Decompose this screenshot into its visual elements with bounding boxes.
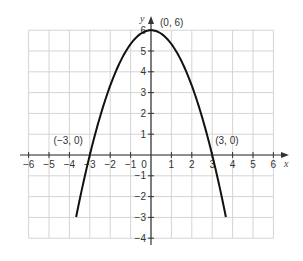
- x-tick-label: −6: [23, 159, 35, 170]
- y-tick-label: 2: [140, 108, 146, 119]
- x-tick-label: 1: [169, 159, 175, 170]
- point-label: (3, 0): [215, 135, 238, 146]
- y-tick-label: 1: [140, 129, 146, 140]
- y-tick-label: −4: [135, 233, 147, 244]
- y-axis-label: y: [139, 13, 145, 24]
- x-tick-label: 6: [271, 159, 277, 170]
- y-tick-label: 4: [140, 66, 146, 77]
- y-axis-arrow-icon: [148, 16, 154, 24]
- point-annotations: (0, 6)(−3, 0)(3, 0): [54, 17, 239, 146]
- x-tick-label: 2: [189, 159, 195, 170]
- point-label: (−3, 0): [54, 135, 83, 146]
- y-tick-label: 5: [140, 46, 146, 57]
- x-tick-label: −4: [64, 159, 76, 170]
- parabola-chart: −6−5−4−3−2−10123456−4−3−2−1123456 (0, 6)…: [0, 0, 303, 261]
- y-tick-label: −1: [135, 170, 147, 181]
- x-axis-label: x: [283, 158, 289, 169]
- point-label: (0, 6): [160, 17, 183, 28]
- x-tick-label: −2: [104, 159, 116, 170]
- x-tick-label: 5: [250, 159, 256, 170]
- y-tick-label: −2: [135, 191, 147, 202]
- y-tick-label: −3: [135, 212, 147, 223]
- y-tick-label: 3: [140, 87, 146, 98]
- axes: [20, 16, 289, 245]
- x-tick-label: 0: [141, 159, 147, 170]
- x-tick-label: −1: [125, 159, 137, 170]
- x-tick-label: 4: [230, 159, 236, 170]
- x-tick-label: −5: [43, 159, 55, 170]
